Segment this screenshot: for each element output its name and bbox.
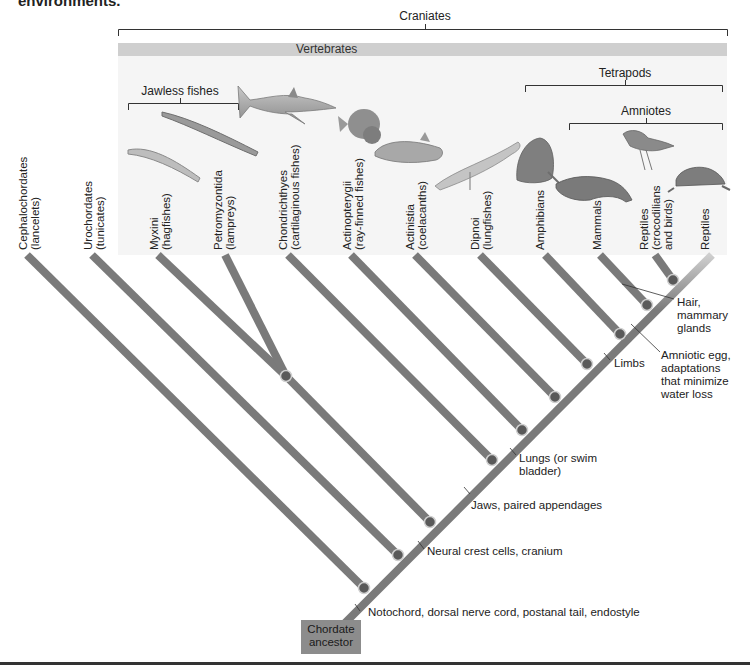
branch-cephalochordates — [27, 255, 364, 588]
vertebrates-band: Vertebrates — [118, 43, 727, 56]
taxon-actinopterygii: Actinopterygii(ray-finned fishes) — [341, 158, 365, 250]
node-tetrapods — [615, 329, 626, 340]
branch-actinistia — [415, 255, 555, 397]
taxon-urochordates: Urochordates(tunicates) — [82, 181, 106, 250]
leader-notochord — [355, 604, 360, 611]
taxon-dipnoi: Dipnoi(lungfishes) — [469, 191, 493, 250]
char-limbs: Limbs — [614, 357, 645, 370]
node-tetrapod-lungfish — [582, 359, 593, 370]
char-jaws: Jaws, paired appendages — [471, 499, 602, 512]
branch-petromyzontida — [225, 255, 286, 376]
taxon-amphibians: Amphibians — [534, 190, 546, 250]
craniates-label: Craniates — [399, 9, 450, 23]
branch-dipnoi — [480, 255, 587, 364]
header-cut-text: environments. — [18, 0, 121, 9]
leader-hair — [622, 284, 674, 299]
taxon-chondrichthyes: Chondrichthyes(cartilaginous fishes) — [277, 145, 301, 250]
leader-lungs — [510, 448, 516, 455]
branch-mammals — [600, 255, 647, 305]
branch-myxini — [158, 255, 286, 376]
branch-urochordates — [92, 255, 398, 555]
branch-chondrichthyes — [288, 255, 492, 460]
taxon-myxini: Myxini(hagfishes) — [148, 193, 172, 250]
node-craniates — [393, 550, 404, 561]
char-lungs: Lungs (or swim bladder) — [519, 452, 597, 478]
branch-craniate-base — [286, 376, 430, 522]
char-neural-crest: Neural crest cells, cranium — [427, 545, 562, 558]
bottom-rule — [0, 662, 750, 665]
taxon-reptiles-crocodilians-birds: Reptiles(crocodiliansand birds) — [638, 185, 674, 250]
branch-reptiles-birds — [655, 255, 673, 280]
amniotes-label: Amniotes — [621, 104, 671, 118]
node-lobe-fins — [550, 392, 561, 403]
leader-limbs — [604, 353, 610, 360]
leader-jaws — [464, 487, 470, 494]
node-gnathostomes — [487, 455, 498, 466]
vertebrates-label: Vertebrates — [296, 42, 357, 56]
branch-actinopterygii — [351, 255, 522, 430]
jawless-fishes-label: Jawless fishes — [141, 84, 218, 98]
branch-amphibians — [545, 255, 620, 334]
char-hair: Hair, mammary glands — [677, 296, 728, 335]
node-amniotes — [642, 300, 653, 311]
main-trunk — [343, 255, 712, 625]
node-vertebrates — [425, 517, 436, 528]
node-jawless — [281, 371, 292, 382]
char-amniotic-egg: Amniotic egg, adaptations that minimize … — [661, 349, 731, 401]
taxon-actinistia: Actinistia(coelacanths) — [404, 181, 428, 250]
tetrapods-label: Tetrapods — [599, 66, 652, 80]
node-reptiles — [668, 275, 679, 286]
taxon-reptiles: Reptiles — [699, 208, 711, 250]
taxon-petromyzontida: Petromyzontida(lampreys) — [212, 170, 236, 250]
chordate-ancestor-box: Chordate ancestor — [301, 620, 361, 654]
leader-amniotic — [631, 324, 660, 352]
node-osteichthyans — [517, 425, 528, 436]
taxon-mammals: Mammals — [591, 200, 603, 250]
char-notochord: Notochord, dorsal nerve cord, postanal t… — [368, 606, 640, 619]
leader-neural-crest — [418, 541, 424, 549]
node-chordates — [359, 583, 370, 594]
taxon-cephalochordates: Cephalochordates(lancelets) — [17, 157, 41, 250]
